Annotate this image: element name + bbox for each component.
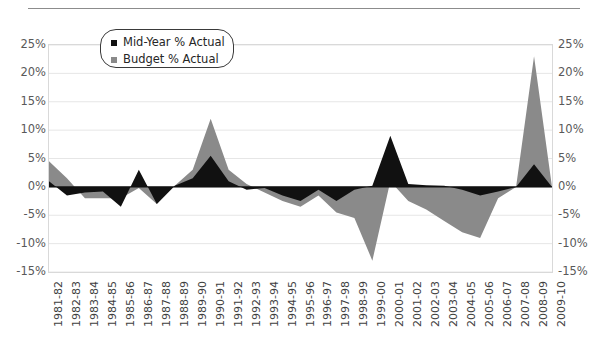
x-tick-label: 1998-99: [358, 281, 369, 327]
x-tick-label: 1981-82: [53, 281, 64, 327]
x-tick-label: 1984-85: [107, 281, 118, 327]
legend-label-budget: Budget % Actual: [123, 54, 219, 66]
y-tick-label-right: 5%: [558, 153, 576, 165]
y-tick-label-left: 10%: [20, 124, 46, 136]
chart-svg: [49, 45, 552, 272]
legend-swatch-mid-year: [111, 40, 117, 46]
x-tick-label: 1997-98: [340, 281, 351, 327]
y-tick-label-right: 25%: [558, 39, 584, 51]
x-tick-label: 1990-91: [215, 281, 226, 327]
x-tick-label: 2009-10: [556, 281, 567, 327]
y-tick-label-right: -5%: [558, 209, 580, 221]
legend-item-mid-year: Mid-Year % Actual: [111, 35, 225, 51]
y-tick-label-left: -5%: [24, 209, 46, 221]
y-tick-label-left: 25%: [20, 39, 46, 51]
legend-label-mid-year: Mid-Year % Actual: [123, 37, 225, 49]
plot-canvas: [49, 45, 552, 272]
x-tick-label: 1995-96: [305, 281, 316, 327]
y-tick-label-left: -15%: [16, 266, 46, 278]
x-tick-label: 1999-00: [376, 281, 387, 327]
x-tick-label: 1991-92: [233, 281, 244, 327]
x-tick-label: 2006-07: [502, 281, 513, 327]
legend-swatch-budget: [111, 57, 117, 63]
y-tick-label-left: 5%: [28, 153, 46, 165]
x-tick-label: 1994-95: [287, 281, 298, 327]
y-tick-label-right: 15%: [558, 96, 584, 108]
x-tick-label: 1987-88: [161, 281, 172, 327]
x-tick-label: 1992-93: [251, 281, 262, 327]
x-tick-label: 2004-05: [466, 281, 477, 327]
x-tick-label: 1989-90: [197, 281, 208, 327]
x-tick-label: 2001-02: [412, 281, 423, 327]
x-tick-label: 1993-94: [269, 281, 280, 327]
x-tick-label: 2002-03: [430, 281, 441, 327]
x-tick-label: 2005-06: [484, 281, 495, 327]
y-tick-label-right: 10%: [558, 124, 584, 136]
x-tick-label: 1982-83: [71, 281, 82, 327]
plot-area: [48, 44, 553, 273]
x-tick-label: 1983-84: [89, 281, 100, 327]
x-tick-label: 2000-01: [394, 281, 405, 327]
legend-item-budget: Budget % Actual: [111, 52, 225, 68]
y-tick-label-right: -15%: [558, 266, 588, 278]
y-tick-label-left: 15%: [20, 96, 46, 108]
y-tick-label-right: 20%: [558, 67, 584, 79]
chart-legend: Mid-Year % Actual Budget % Actual: [100, 29, 234, 68]
top-divider-rule: [28, 8, 580, 9]
x-tick-label: 1996-97: [322, 281, 333, 327]
x-tick-label: 2007-08: [520, 281, 531, 327]
x-tick-label: 2008-09: [538, 281, 549, 327]
x-tick-label: 1985-86: [125, 281, 136, 327]
y-tick-label-right: -10%: [558, 238, 588, 250]
x-tick-label: 2003-04: [448, 281, 459, 327]
x-tick-label: 1986-87: [143, 281, 154, 327]
y-tick-label-left: 20%: [20, 67, 46, 79]
x-tick-label: 1988-89: [179, 281, 190, 327]
chart-figure: 25%20%15%10%5%0%-5%-10%-15% 25%20%15%10%…: [0, 0, 602, 361]
y-tick-label-left: 0%: [28, 181, 46, 193]
y-tick-label-right: 0%: [558, 181, 576, 193]
y-tick-label-left: -10%: [16, 238, 46, 250]
